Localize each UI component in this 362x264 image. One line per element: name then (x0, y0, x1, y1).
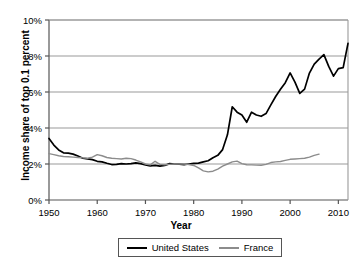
legend-line-icon-united-states (127, 247, 147, 249)
chart-container: 0%2%4%6%8%10%195019601970198019902000201… (0, 0, 362, 264)
x-tick-label: 1960 (87, 207, 108, 218)
legend-label-united-states: United States (152, 242, 209, 253)
x-tick-label: 1980 (183, 207, 204, 218)
data-line-united-states (49, 43, 348, 166)
legend-item-france: France (219, 242, 274, 253)
data-line-france (49, 154, 319, 172)
x-tick-label: 2000 (280, 207, 301, 218)
legend-item-united-states: United States (127, 242, 209, 253)
x-axis-title: Year (0, 220, 362, 231)
x-tick-label: 1950 (38, 207, 59, 218)
x-tick-label: 2010 (328, 207, 349, 218)
x-tick-label: 1970 (135, 207, 156, 218)
legend-label-france: France (244, 242, 274, 253)
y-axis-title: Income share of top 0.1 percent (20, 11, 31, 201)
chart-legend: United States France (118, 238, 282, 257)
legend-line-icon-france (219, 247, 239, 249)
x-tick-label: 1990 (231, 207, 252, 218)
